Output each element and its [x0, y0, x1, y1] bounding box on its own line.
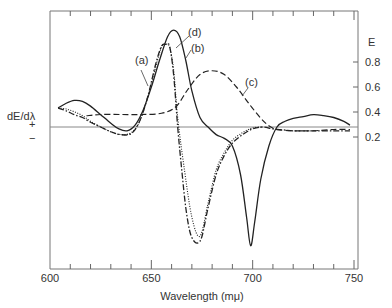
- curves: [58, 30, 350, 246]
- curve-labels: (a) (d) (b) (c): [135, 26, 258, 96]
- x-tick-label: 650: [142, 272, 160, 284]
- chart: 6006507007500.20.40.60.8 dE/dλ + − E Wav…: [0, 0, 392, 308]
- right-y-tick-label: 0.6: [365, 81, 380, 93]
- series-line-d: [58, 43, 350, 243]
- leader-line-c: [242, 88, 248, 96]
- series-line-a: [58, 30, 350, 246]
- x-tick-label: 700: [243, 272, 261, 284]
- x-tick-label: 750: [345, 272, 363, 284]
- curve-label-a: (a): [135, 54, 148, 66]
- leader-line-b: [186, 50, 191, 58]
- curve-label-d: (d): [188, 26, 201, 38]
- x-tick-label: 600: [41, 272, 59, 284]
- right-y-tick-label: 0.4: [365, 106, 380, 118]
- negative-sign-label: −: [29, 132, 35, 144]
- right-axis-title: E: [368, 36, 375, 48]
- positive-sign-label: +: [29, 118, 35, 130]
- series-line-c: [86, 71, 349, 131]
- right-y-tick-label: 0.8: [365, 56, 380, 68]
- series-line-b: [58, 44, 263, 236]
- right-y-tick-label: 0.2: [365, 131, 380, 143]
- curve-label-b: (b): [191, 42, 204, 54]
- leader-line-a: [141, 70, 148, 86]
- axis-ticks: 6006507007500.20.40.60.8: [41, 11, 380, 284]
- curve-label-c: (c): [245, 76, 258, 88]
- x-axis-title: Wavelength (mμ): [160, 290, 244, 302]
